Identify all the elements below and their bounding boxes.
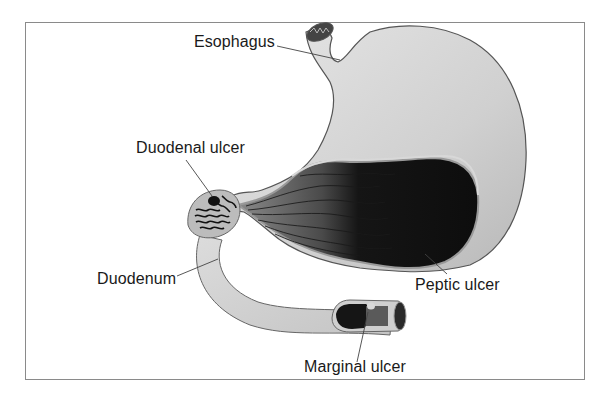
label-duodenum: Duodenum <box>97 270 176 288</box>
label-peptic-ulcer: Peptic ulcer <box>415 276 500 294</box>
marginal-ulcer-spot <box>367 303 375 310</box>
label-duodenal-ulcer: Duodenal ulcer <box>136 139 245 157</box>
stomach-illustration <box>0 0 610 401</box>
label-esophagus: Esophagus <box>194 33 275 51</box>
jejunum-segment <box>332 300 406 332</box>
stomach-interior <box>238 156 478 268</box>
duodenal-bulb <box>188 190 240 238</box>
label-marginal-ulcer: Marginal ulcer <box>304 358 406 376</box>
duodenal-ulcer-spot <box>208 196 220 206</box>
duodenal-ulcer-leader <box>186 160 212 196</box>
